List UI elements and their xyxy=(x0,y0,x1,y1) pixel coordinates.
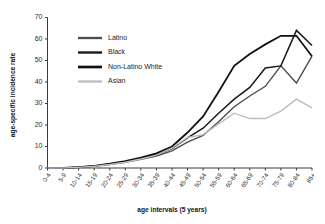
x-tick-label: 75-79 xyxy=(270,171,285,188)
x-tick-label: 50-54 xyxy=(193,171,208,188)
y-tick-label: 10 xyxy=(35,142,43,149)
y-tick-label: 50 xyxy=(35,56,43,63)
y-tick-label: 60 xyxy=(35,35,43,42)
x-tick-label: 55-59 xyxy=(208,171,223,188)
y-axis: 010203040506070 xyxy=(35,13,48,171)
x-tick-label: 0-4 xyxy=(41,171,52,183)
x-tick-label: 60-64 xyxy=(224,171,239,188)
series-line-non-latino-white xyxy=(48,36,313,168)
x-tick-label: 20-24 xyxy=(99,171,114,188)
line-chart: 010203040506070 0-45-910-1415-1920-2425-… xyxy=(0,0,325,224)
legend-label-non-latino-white: Non-Latino White xyxy=(108,63,162,70)
y-tick-label: 0 xyxy=(39,164,43,171)
x-tick-label: 45-49 xyxy=(177,171,192,188)
chart-legend: LatinoBlackNon-Latino WhiteAsian xyxy=(78,34,162,85)
x-tick-label: 70-74 xyxy=(255,171,270,188)
x-tick-label: 35-39 xyxy=(146,171,161,188)
series-lines xyxy=(48,30,313,168)
legend-label-asian: Asian xyxy=(108,77,126,84)
x-tick-label: 10-14 xyxy=(68,171,83,188)
x-axis: 0-45-910-1415-1920-2425-2930-3435-3940-4… xyxy=(41,168,317,189)
legend-label-black: Black xyxy=(108,48,126,55)
y-tick-label: 40 xyxy=(35,78,43,85)
x-axis-title: age intervals (5 years) xyxy=(137,206,206,214)
y-tick-label: 30 xyxy=(35,99,43,106)
y-tick-label: 20 xyxy=(35,121,43,128)
x-tick-label: 30-34 xyxy=(130,171,145,188)
series-line-black xyxy=(48,30,313,168)
x-tick-label: 65-69 xyxy=(239,171,254,188)
chart-figure: 010203040506070 0-45-910-1415-1920-2425-… xyxy=(0,0,325,224)
x-tick-label: 25-29 xyxy=(115,171,130,188)
legend-label-latino: Latino xyxy=(108,34,127,41)
y-axis-title: age-specific incidence rate xyxy=(9,53,17,138)
x-tick-label: 80-84 xyxy=(286,171,301,188)
y-tick-label: 70 xyxy=(35,13,43,20)
x-tick-label: 15-19 xyxy=(84,171,99,188)
x-tick-label: 85+ xyxy=(305,171,317,184)
series-line-latino xyxy=(48,56,313,168)
series-line-asian xyxy=(48,99,313,168)
x-tick-label: 40-44 xyxy=(161,171,176,188)
x-tick-label: 5-9 xyxy=(57,171,68,183)
